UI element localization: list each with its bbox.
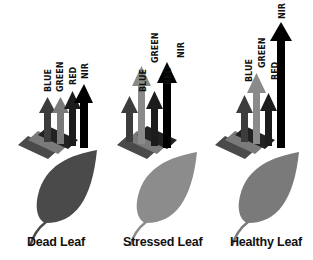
panel-stressed-leaf: BLUE GREEN RED NIR Stressed Leaf	[105, 0, 205, 260]
band-label-blue: BLUE	[44, 69, 53, 92]
nir-arrow-icon	[270, 22, 292, 148]
caption-healthy-leaf: Healthy Leaf	[230, 235, 302, 249]
band-label-nir: NIR	[177, 42, 186, 58]
band-label-green: GREEN	[258, 38, 267, 68]
band-label-green: GREEN	[56, 62, 65, 92]
panel-dead-leaf: BLUE GREEN RED NIR Dead Leaf	[0, 0, 105, 260]
band-label-blue: BLUE	[245, 59, 254, 82]
band-label-red: RED	[164, 66, 173, 85]
nir-arrow-icon	[74, 84, 93, 148]
leaf-icon	[232, 152, 299, 246]
band-label-blue: BLUE	[139, 69, 148, 92]
band-label-red: RED	[271, 61, 280, 80]
band-label-nir: NIR	[81, 63, 90, 79]
band-label-green: GREEN	[151, 33, 160, 63]
band-label-nir: NIR	[278, 3, 287, 19]
caption-dead-leaf: Dead Leaf	[27, 235, 85, 249]
leaf-icon	[30, 150, 97, 246]
dead-leaf-diagram: BLUE GREEN RED NIR	[0, 0, 105, 260]
stressed-leaf-diagram: BLUE GREEN RED NIR	[105, 0, 205, 260]
healthy-leaf-diagram: BLUE GREEN RED NIR	[205, 0, 313, 260]
caption-stressed-leaf: Stressed Leaf	[123, 235, 202, 249]
leaf-icon	[130, 152, 197, 246]
band-label-red: RED	[69, 66, 78, 85]
panel-healthy-leaf: BLUE GREEN RED NIR Healthy Leaf	[205, 0, 313, 260]
